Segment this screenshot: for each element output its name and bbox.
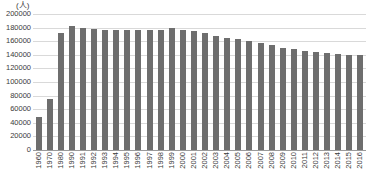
bar — [47, 99, 53, 150]
x-axis-tick: 2013 — [323, 152, 331, 169]
x-axis-tick: 2012 — [312, 152, 320, 169]
x-axis-tick: 2010 — [290, 152, 298, 169]
y-axis-tick: 0 — [0, 146, 31, 154]
x-axis-tick: 1999 — [168, 152, 176, 169]
bar — [313, 52, 319, 150]
x-axis-tick: 1996 — [134, 152, 142, 169]
y-axis-tick: 140000 — [0, 51, 31, 59]
bar — [235, 39, 241, 150]
bar — [36, 117, 42, 150]
x-axis-tick: 2006 — [245, 152, 253, 169]
x-axis-tick: 1998 — [157, 152, 165, 169]
bar — [102, 30, 108, 150]
x-axis-tick: 1980 — [57, 152, 65, 169]
x-axis-tick: 1994 — [112, 152, 120, 169]
bar — [280, 48, 286, 150]
x-axis-tick: 2005 — [234, 152, 242, 169]
x-axis-tick: 2004 — [223, 152, 231, 169]
bar — [169, 28, 175, 150]
x-axis-tick: 2003 — [212, 152, 220, 169]
x-axis-tick: 1991 — [79, 152, 87, 169]
x-axis-tick: 2001 — [190, 152, 198, 169]
bar — [324, 53, 330, 150]
bar — [335, 54, 341, 150]
y-axis-tick: 200000 — [0, 10, 31, 18]
bar — [91, 29, 97, 150]
bar — [113, 30, 119, 150]
bar — [80, 28, 86, 150]
x-axis-tick: 2007 — [257, 152, 265, 169]
x-axis-tick: 2002 — [201, 152, 209, 169]
bar-chart: (人) 020000400006000080000100000120000140… — [0, 0, 371, 189]
y-axis-tick: 180000 — [0, 24, 31, 32]
x-axis-tick: 1993 — [101, 152, 109, 169]
y-axis-tick-labels: 0200004000060000800001000001200001400001… — [0, 0, 31, 189]
y-axis-tick: 120000 — [0, 64, 31, 72]
y-axis-tick: 80000 — [0, 92, 31, 100]
y-axis-tick: 160000 — [0, 37, 31, 45]
bar — [135, 30, 141, 150]
y-axis-tick: 100000 — [0, 78, 31, 86]
x-axis-tick-labels: 1960197019801990199119921993199419951996… — [33, 152, 366, 189]
bar — [302, 51, 308, 150]
bar — [346, 55, 352, 150]
bar — [258, 43, 264, 150]
x-axis-tick: 1995 — [123, 152, 131, 169]
bar — [202, 33, 208, 150]
plot-area — [33, 14, 366, 150]
bar — [180, 30, 186, 150]
bar — [213, 36, 219, 150]
y-axis-tick: 20000 — [0, 132, 31, 140]
x-axis-tick: 1990 — [68, 152, 76, 169]
x-axis-tick: 2000 — [179, 152, 187, 169]
x-axis-tick: 1970 — [46, 152, 54, 169]
x-axis-tick: 2016 — [356, 152, 364, 169]
x-axis-tick: 2011 — [301, 152, 309, 168]
gridline — [33, 150, 366, 151]
x-axis-tick: 2014 — [334, 152, 342, 169]
bar — [124, 30, 130, 150]
x-axis-tick: 2009 — [279, 152, 287, 169]
y-axis-tick: 40000 — [0, 119, 31, 127]
bar — [269, 45, 275, 150]
bar — [357, 55, 363, 150]
bar — [191, 31, 197, 150]
x-axis-tick: 1960 — [35, 152, 43, 169]
bar — [147, 30, 153, 150]
bar — [69, 26, 75, 150]
bar — [224, 38, 230, 150]
bar — [158, 30, 164, 150]
y-axis-tick: 60000 — [0, 105, 31, 113]
bars-layer — [33, 14, 366, 150]
bar — [291, 49, 297, 150]
x-axis-tick: 1992 — [90, 152, 98, 169]
x-axis-tick: 2008 — [268, 152, 276, 169]
bar — [246, 41, 252, 150]
bar — [58, 33, 64, 150]
x-axis-tick: 2015 — [345, 152, 353, 169]
x-axis-tick: 1997 — [146, 152, 154, 169]
